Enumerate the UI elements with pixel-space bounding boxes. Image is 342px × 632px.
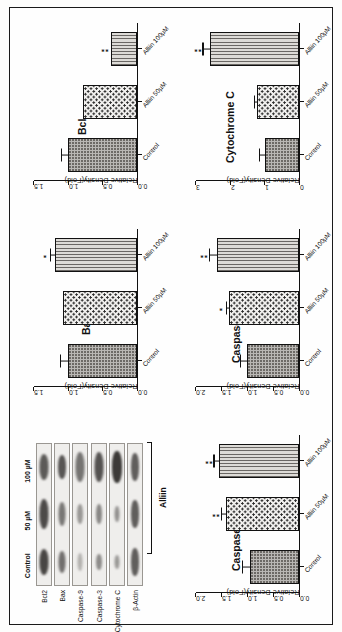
error-bar: [241, 360, 247, 361]
x-axis-tick-label: Alliin 100µM: [303, 231, 332, 262]
blot-lane-label: Control: [24, 553, 31, 578]
bar-slot: [196, 76, 299, 129]
y-axis-tick-label: 2.0: [196, 596, 205, 603]
panel-bax: Relative Density(Fold)Bax0.00.51.01.5*Co…: [20, 221, 182, 427]
blot-row-label: β-Actin: [132, 590, 139, 611]
blot-band: [112, 452, 122, 484]
error-bar: [61, 360, 68, 361]
x-axis-label-group: ControlAlliin 50µMAlliin 100µM: [138, 229, 182, 387]
error-bar: [210, 255, 216, 256]
significance-marker: **: [212, 510, 220, 519]
y-axis-tick-label: 1.0: [248, 596, 257, 603]
x-axis-tick-label: Alliin 50µM: [141, 286, 168, 314]
plot-area: 0.00.51.01.52.0****: [196, 435, 300, 593]
panel-bcl2: Relative Density(Fold)Bcl20.00.51.01.5**…: [20, 15, 182, 221]
chart-bcl2: Relative Density(Fold)Bcl20.00.51.01.5**…: [20, 15, 182, 221]
blot-band: [131, 454, 139, 482]
x-axis-tick-label: Alliin 50µM: [303, 492, 330, 520]
x-axis-label-slot: Alliin 50µM: [300, 76, 342, 129]
significance-marker: *: [218, 304, 222, 313]
error-bar-cap: [50, 249, 51, 262]
error-bar: [215, 461, 220, 462]
treatment-bracket-tick-left: [147, 553, 152, 554]
blot-band: [40, 500, 49, 530]
error-bar-cap: [209, 249, 210, 262]
y-axis-tick-label: 1.5: [222, 390, 231, 397]
blot-lane-group: [36, 443, 145, 586]
bar-slot: [34, 282, 137, 335]
x-axis-label-slot: Alliin 100µM: [300, 229, 342, 282]
error-bar-cap: [221, 508, 222, 521]
bar-slot: **: [196, 435, 299, 488]
x-axis-label-slot: Alliin 50µM: [300, 282, 342, 335]
x-axis-label-slot: Alliin 100µM: [300, 435, 342, 488]
blot-strip: [109, 443, 125, 586]
x-axis-label-slot: Alliin 100µM: [138, 23, 182, 76]
bar-slot: **: [34, 23, 137, 76]
y-axis-tick-label: 0.0: [300, 390, 309, 397]
bar-alliin-100-m: [55, 238, 137, 272]
treatment-bracket: [151, 442, 152, 554]
y-axis-tick-label: 3: [196, 184, 200, 191]
blot-band: [96, 554, 102, 570]
blot-band: [94, 453, 103, 483]
error-bar: [255, 101, 257, 102]
blot-band: [114, 507, 119, 523]
figure-page: Bcl2BaxCaspase-9Caspase-3Cytochrome Cβ-A…: [0, 0, 342, 632]
blot-band: [131, 501, 139, 529]
error-bar: [222, 513, 226, 514]
significance-marker: **: [193, 45, 201, 54]
error-bar: [260, 154, 264, 155]
blot-container: Bcl2BaxCaspase-9Caspase-3Cytochrome Cβ-A…: [20, 427, 182, 632]
blot-band: [77, 505, 83, 525]
bar-slot: [34, 128, 137, 181]
blot-band: [59, 503, 66, 527]
x-axis-tick-label: Alliin 50µM: [303, 286, 330, 314]
blot-strip: [72, 443, 88, 586]
significance-marker: *: [43, 251, 47, 260]
blot-band: [96, 505, 102, 525]
bar-control: [250, 550, 299, 584]
figure-frame: Bcl2BaxCaspase-9Caspase-3Cytochrome Cβ-A…: [9, 7, 333, 625]
bar-alliin-100-m: [217, 238, 299, 272]
x-axis-tick-label: Control: [303, 553, 322, 573]
error-bar-cap: [61, 148, 62, 161]
x-axis-label-slot: Alliin 50µM: [138, 282, 182, 335]
blot-row-label: Bcl2: [41, 590, 48, 603]
panel-grid: Bcl2BaxCaspase-9Caspase-3Cytochrome Cβ-A…: [20, 15, 342, 632]
x-axis-label-slot: Alliin 100µM: [300, 23, 342, 76]
blot-band: [40, 549, 49, 575]
bar-slot: [196, 128, 299, 181]
error-bar: [243, 566, 250, 567]
y-axis-tick-label: 1.0: [69, 390, 78, 397]
blot-lane-label: 100 µM: [24, 459, 31, 483]
x-axis-label-slot: Control: [300, 334, 342, 387]
x-axis-label-group: ControlAlliin 50µMAlliin 100µM: [300, 435, 342, 593]
y-axis-tick-label: 0.0: [138, 184, 147, 191]
x-axis-label-slot: Alliin 100µM: [138, 229, 182, 282]
blot-strip: [91, 443, 107, 586]
x-axis-label-group: ControlAlliin 50µMAlliin 100µM: [138, 23, 182, 181]
error-bar-cap: [254, 96, 255, 109]
error-bar-cap: [60, 354, 61, 367]
bar-control: [68, 138, 137, 172]
bar-alliin-100-m: [111, 32, 137, 66]
bar-alliin-100-m: [210, 32, 299, 66]
bar-slot: **: [196, 488, 299, 541]
y-axis-tick-label: 0.5: [103, 184, 112, 191]
blot-strip: [54, 443, 70, 586]
significance-marker: **: [200, 251, 208, 260]
x-axis-label-slot: Control: [138, 128, 182, 181]
y-axis-tick-label: 1.5: [222, 596, 231, 603]
x-axis-tick-label: Control: [141, 347, 160, 367]
bar-slot: *: [34, 229, 137, 282]
bar-alliin-50-m: [226, 497, 299, 531]
x-axis-tick-label: Alliin 100µM: [141, 25, 170, 56]
plot-area: 0123**: [196, 23, 300, 181]
bar-alliin-50-m: [63, 291, 137, 325]
y-axis-tick-label: 0.0: [300, 596, 309, 603]
bar-group: *: [34, 229, 137, 387]
bar-control: [247, 344, 298, 378]
blot-band: [78, 553, 83, 571]
x-axis-label-slot: Control: [138, 334, 182, 387]
